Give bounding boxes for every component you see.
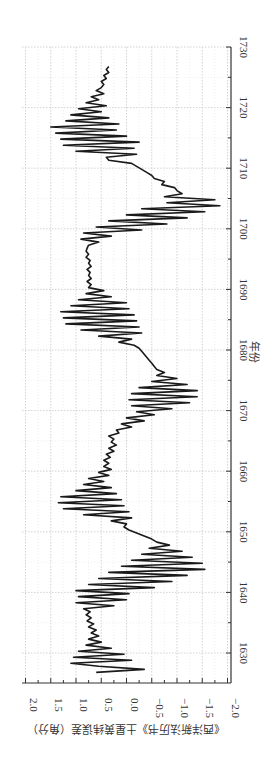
year-tick-label: 1660	[238, 460, 250, 483]
value-tick-label: −0.5	[154, 698, 166, 718]
value-tick-label: 0.0	[129, 698, 141, 712]
value-axis-title: 《西洋新法历书》土星黄纬误差（角分）	[27, 722, 225, 736]
year-tick-label: 1650	[238, 521, 250, 544]
value-tick-label: −1.5	[204, 698, 216, 718]
value-tick-label: 2.0	[28, 698, 40, 712]
year-tick-label: 1640	[238, 581, 250, 604]
year-axis-ticks: 1630164016501660167016801690170017101720…	[226, 36, 250, 665]
value-tick-label: 1.5	[53, 698, 65, 712]
year-tick-label: 1700	[238, 218, 250, 241]
value-tick-label: 1.0	[78, 698, 90, 712]
value-axis-ticks: 2.01.51.00.50.0−0.5−1.0−1.5−2.0	[26, 678, 242, 718]
year-tick-label: 1720	[238, 97, 250, 120]
rotated-line-chart: 1630164016501660167016801690170017101720…	[0, 0, 277, 761]
year-axis-title: 年份	[247, 341, 261, 363]
year-tick-label: 1710	[238, 157, 250, 180]
year-tick-label: 1670	[238, 400, 250, 423]
year-tick-label: 1730	[238, 36, 250, 59]
year-tick-label: 1630	[238, 642, 250, 665]
year-tick-label: 1690	[238, 278, 250, 301]
value-tick-label: 0.5	[103, 698, 115, 712]
value-tick-label: −2.0	[230, 698, 242, 718]
value-tick-label: −1.0	[179, 698, 191, 718]
